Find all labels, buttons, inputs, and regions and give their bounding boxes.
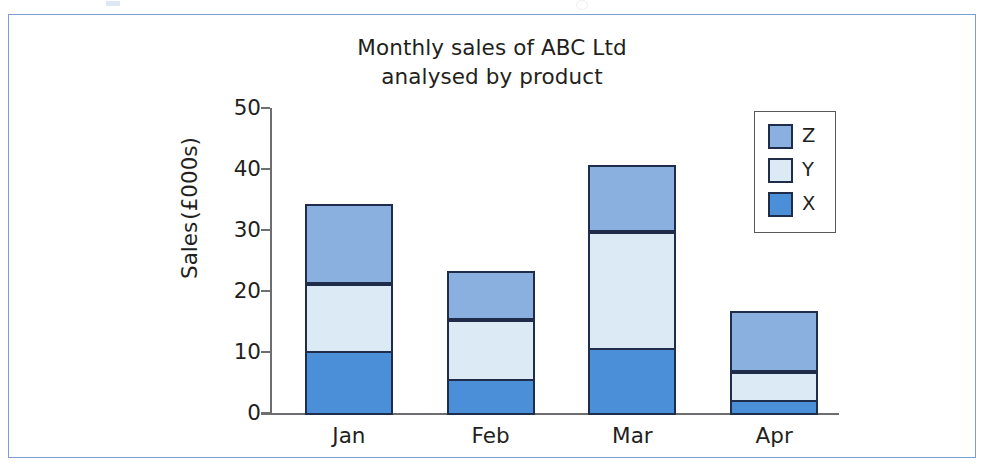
scan-artifact-right bbox=[576, 0, 588, 10]
scan-artifact-left bbox=[106, 1, 120, 6]
y-axis-tick bbox=[261, 229, 270, 231]
x-axis-tick-label-mar: Mar bbox=[612, 425, 653, 447]
x-axis-tick-label-apr: Apr bbox=[756, 425, 793, 447]
y-axis-title: Sales (£000s) bbox=[161, 123, 217, 293]
chart-title-line-2: analysed by product bbox=[9, 62, 975, 91]
y-axis-tick bbox=[261, 290, 270, 292]
y-axis-line bbox=[270, 108, 272, 413]
legend-label-x: X bbox=[802, 194, 815, 214]
y-axis-tick-label: 0 bbox=[247, 402, 261, 424]
bar-segment-apr-x[interactable] bbox=[730, 400, 818, 415]
bar-segment-apr-z[interactable] bbox=[730, 311, 818, 372]
legend-item-y[interactable]: Y bbox=[768, 155, 835, 185]
chart-title-line-1: Monthly sales of ABC Ltd bbox=[9, 33, 975, 62]
bar-segment-jan-z[interactable] bbox=[305, 204, 393, 283]
y-axis-tick-label: 10 bbox=[234, 341, 261, 363]
legend-swatch-x bbox=[768, 192, 793, 217]
y-axis-tick-label: 30 bbox=[234, 219, 261, 241]
bar-stack bbox=[730, 311, 818, 413]
y-axis-title-line-2: (£000s) bbox=[176, 137, 203, 220]
x-axis-tick-label-jan: Jan bbox=[332, 425, 365, 447]
bar-segment-apr-y[interactable] bbox=[730, 372, 818, 403]
legend-label-z: Z bbox=[802, 126, 815, 146]
bar-segment-feb-x[interactable] bbox=[447, 379, 535, 416]
legend-item-x[interactable]: X bbox=[768, 189, 835, 219]
chart-title: Monthly sales of ABC Ltd analysed by pro… bbox=[9, 33, 975, 91]
legend-item-z[interactable]: Z bbox=[768, 121, 835, 151]
bar-segment-jan-y[interactable] bbox=[305, 284, 393, 354]
y-axis-tick bbox=[261, 412, 270, 414]
bar-segment-mar-x[interactable] bbox=[588, 348, 676, 415]
y-axis-tick-label: 40 bbox=[234, 158, 261, 180]
x-axis-tick-label-feb: Feb bbox=[472, 425, 510, 447]
y-axis-tick-label: 50 bbox=[234, 97, 261, 119]
bar-segment-mar-y[interactable] bbox=[588, 232, 676, 351]
plot-area: 01020304050 JanFebMarApr bbox=[270, 108, 837, 413]
y-axis-tick-label: 20 bbox=[234, 280, 261, 302]
legend-swatch-y bbox=[768, 158, 793, 183]
bar-segment-feb-z[interactable] bbox=[447, 271, 535, 320]
bar-segment-jan-x[interactable] bbox=[305, 351, 393, 415]
figure-frame: Monthly sales of ABC Ltd analysed by pro… bbox=[8, 14, 976, 458]
y-axis-tick bbox=[261, 351, 270, 353]
y-axis-title-line-1: Sales bbox=[176, 222, 203, 279]
legend-label-y: Y bbox=[802, 160, 814, 180]
bar-stack bbox=[305, 204, 393, 413]
y-axis-tick bbox=[261, 107, 270, 109]
bar-segment-feb-y[interactable] bbox=[447, 320, 535, 381]
bar-stack bbox=[588, 165, 676, 413]
y-axis-tick bbox=[261, 168, 270, 170]
chart-legend: ZYX bbox=[754, 111, 836, 233]
legend-swatch-z bbox=[768, 124, 793, 149]
bar-segment-mar-z[interactable] bbox=[588, 165, 676, 232]
bar-stack bbox=[447, 271, 535, 413]
